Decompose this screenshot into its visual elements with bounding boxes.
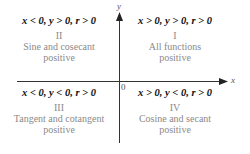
quadrant-i-numeral: I	[125, 30, 225, 41]
quadrant-iv: x > 0, y < 0, r > 0 IV Cosine and secant…	[125, 87, 225, 135]
x-axis-arrow-icon	[219, 78, 228, 85]
quadrant-ii: x < 0, y > 0, r > 0 II Sine and cosecant…	[0, 15, 118, 63]
quadrant-iii-line2: positive	[0, 124, 118, 135]
quadrant-i: x > 0, y > 0, r > 0 I All functions posi…	[125, 15, 225, 63]
quadrant-iii-numeral: III	[0, 102, 118, 113]
quadrant-iii: x < 0, y < 0, r > 0 III Tangent and cota…	[0, 87, 118, 135]
quadrant-iv-line2: positive	[125, 124, 225, 135]
y-axis	[119, 18, 120, 143]
quadrant-ii-line1: Sine and cosecant	[0, 41, 118, 52]
quadrant-iv-line1: Cosine and secant	[125, 113, 225, 124]
quadrant-ii-numeral: II	[0, 30, 118, 41]
quadrant-i-line2: positive	[125, 52, 225, 63]
quadrant-ii-line2: positive	[0, 52, 118, 63]
quadrant-iii-condition: x < 0, y < 0, r > 0	[0, 87, 118, 98]
y-axis-label: y	[117, 1, 121, 11]
quadrant-i-line1: All functions	[125, 41, 225, 52]
quadrant-iv-condition: x > 0, y < 0, r > 0	[125, 87, 225, 98]
quadrant-iii-line1: Tangent and cotangent	[0, 113, 118, 124]
x-axis-label: x	[231, 75, 235, 85]
quadrant-ii-condition: x < 0, y > 0, r > 0	[0, 15, 118, 26]
quadrant-iv-numeral: IV	[125, 102, 225, 113]
quadrant-i-condition: x > 0, y > 0, r > 0	[125, 15, 225, 26]
